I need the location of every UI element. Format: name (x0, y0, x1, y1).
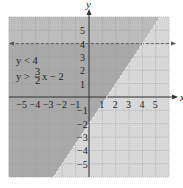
x-tick-label: 5 (153, 99, 158, 110)
x-tick-label: 1 (99, 99, 104, 110)
x-tick-label: −5 (16, 99, 27, 110)
y-axis-label: y (85, 0, 91, 10)
y-tick-label: 4 (80, 39, 85, 50)
y-tick-label: −2 (77, 119, 88, 130)
inequality-2-denominator: 2 (35, 75, 40, 86)
x-tick-label: −3 (43, 99, 54, 110)
x-tick-label: 2 (113, 99, 118, 110)
boundary-arrow-right-icon (171, 42, 176, 46)
y-tick-label: −5 (77, 159, 88, 170)
x-tick-label: 3 (126, 99, 131, 110)
x-tick-label: −2 (56, 99, 67, 110)
y-tick-label: 1 (80, 79, 85, 90)
inequality-2-suffix: x − 2 (42, 71, 64, 82)
y-tick-label: 3 (80, 52, 85, 63)
y-tick-label: −1 (77, 105, 88, 116)
inequality-graph: xy−5−4−3−2−11234554321−1−2−3−4−5y < 4y >… (0, 0, 183, 188)
y-tick-label: 5 (80, 25, 85, 36)
x-axis-arrow-icon (172, 95, 178, 100)
y-tick-label: −3 (77, 132, 88, 143)
inequality-2-prefix: y > (16, 71, 30, 82)
x-tick-label: 4 (139, 99, 144, 110)
x-axis-label: x (179, 91, 183, 103)
x-tick-label: −4 (30, 99, 41, 110)
inequality-1: y < 4 (16, 55, 38, 66)
y-tick-label: −4 (77, 145, 88, 156)
y-tick-label: 2 (80, 65, 85, 76)
